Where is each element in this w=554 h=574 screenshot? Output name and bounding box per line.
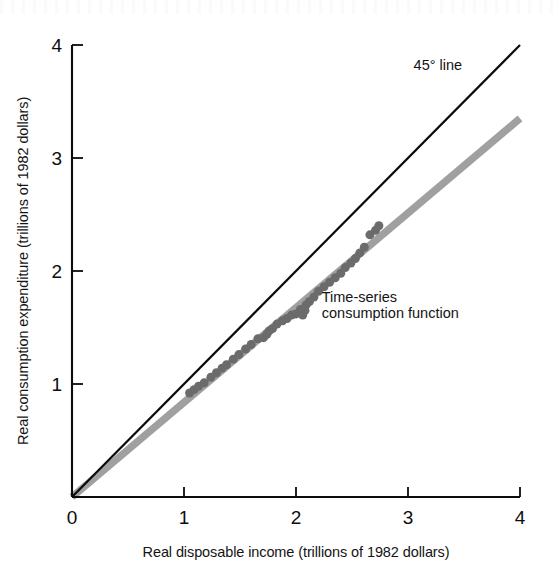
annotation-consumption-function: consumption function: [322, 305, 459, 321]
x-tick-label: 1: [179, 507, 190, 528]
scatter-point: [360, 243, 369, 252]
annotation-consumption-function: Time-series: [322, 289, 397, 305]
chart-figure: 01234 1234 45° lineTime-seriesconsumptio…: [0, 0, 554, 574]
annotation-45-degree-line: 45° line: [414, 57, 463, 73]
consumption-function-chart: 01234 1234 45° lineTime-seriesconsumptio…: [0, 0, 554, 574]
x-tick-label: 0: [67, 507, 78, 528]
y-tick-label: 4: [51, 35, 62, 56]
y-tick-label: 2: [51, 261, 62, 282]
x-axis-title: Real disposable income (trillions of 198…: [143, 544, 450, 560]
y-tick-label: 3: [51, 148, 62, 169]
scatter-point: [374, 221, 383, 230]
x-tick-label: 2: [291, 507, 302, 528]
x-tick-label: 4: [515, 507, 526, 528]
x-tick-label: 3: [403, 507, 414, 528]
y-tick-label: 1: [51, 374, 62, 395]
y-axis-title: Real consumption expenditure (trillions …: [15, 97, 31, 445]
